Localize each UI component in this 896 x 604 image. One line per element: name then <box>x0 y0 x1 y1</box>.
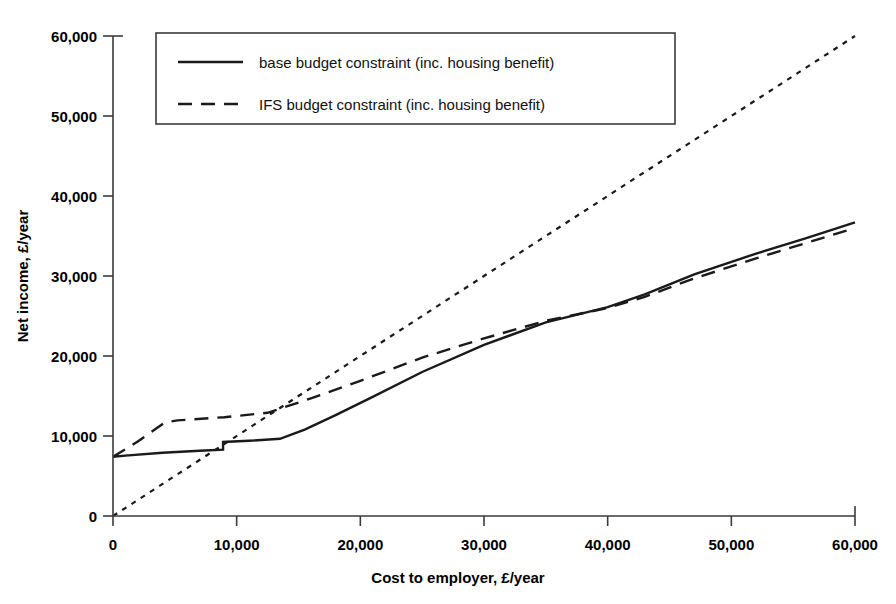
y-tick-label: 10,000 <box>51 428 97 445</box>
x-tick-label: 40,000 <box>585 536 631 553</box>
x-tick-label: 10,000 <box>214 536 260 553</box>
chart-canvas: 010,00020,00030,00040,00050,00060,000 01… <box>0 0 896 604</box>
x-tick-label: 50,000 <box>708 536 754 553</box>
legend-label-base: base budget constraint (inc. housing ben… <box>259 54 554 71</box>
y-tick-label: 60,000 <box>51 28 97 45</box>
x-axis-title: Cost to employer, £/year <box>371 569 545 586</box>
series-ifs-budget-constraint <box>113 228 855 457</box>
y-axis-title: Net income, £/year <box>14 210 31 343</box>
legend: base budget constraint (inc. housing ben… <box>156 33 675 124</box>
x-axis-ticks <box>113 516 855 526</box>
y-tick-label: 0 <box>89 508 97 525</box>
budget-constraint-chart: 010,00020,00030,00040,00050,00060,000 01… <box>0 0 896 604</box>
y-tick-label: 30,000 <box>51 268 97 285</box>
x-axis-tick-labels: 010,00020,00030,00040,00050,00060,000 <box>109 536 878 553</box>
x-tick-label: 20,000 <box>337 536 383 553</box>
y-tick-label: 50,000 <box>51 108 97 125</box>
y-tick-label: 40,000 <box>51 188 97 205</box>
y-axis-tick-labels: 010,00020,00030,00040,00050,00060,000 <box>51 28 97 525</box>
y-axis-ticks <box>103 36 113 516</box>
y-tick-label: 20,000 <box>51 348 97 365</box>
x-tick-label: 30,000 <box>461 536 507 553</box>
x-tick-label: 0 <box>109 536 117 553</box>
legend-label-ifs: IFS budget constraint (inc. housing bene… <box>259 96 545 113</box>
x-tick-label: 60,000 <box>832 536 878 553</box>
